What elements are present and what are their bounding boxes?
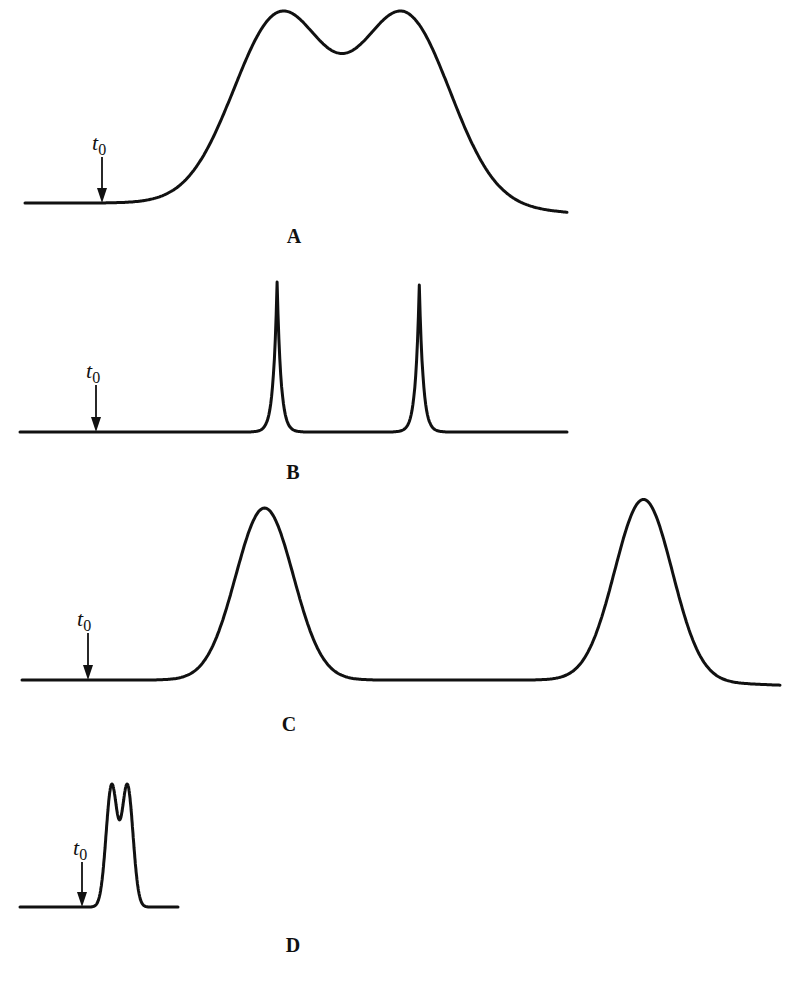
panel-b: t0 B [20, 282, 567, 483]
t0-arrowhead-b [91, 417, 101, 432]
trace-c [22, 499, 780, 685]
panel-a: t0 A [25, 11, 567, 247]
t0-label-d: t0 [73, 835, 87, 863]
t0-arrowhead-c [83, 665, 93, 680]
panel-label-b: B [286, 461, 299, 483]
panel-c: t0 C [22, 499, 780, 735]
chromatogram-figure: t0 A t0 B t0 C t0 D [0, 0, 802, 987]
trace-d [20, 784, 178, 907]
panel-label-a: A [287, 225, 302, 247]
t0-label-a: t0 [92, 130, 106, 158]
panel-d: t0 D [20, 784, 300, 956]
t0-arrowhead-d [77, 892, 87, 907]
t0-label-b: t0 [86, 358, 100, 386]
panel-label-c: C [282, 713, 296, 735]
trace-b [20, 282, 567, 432]
trace-a [25, 11, 567, 212]
t0-arrowhead-a [97, 188, 107, 203]
t0-label-c: t0 [77, 606, 91, 634]
panel-label-d: D [286, 934, 300, 956]
